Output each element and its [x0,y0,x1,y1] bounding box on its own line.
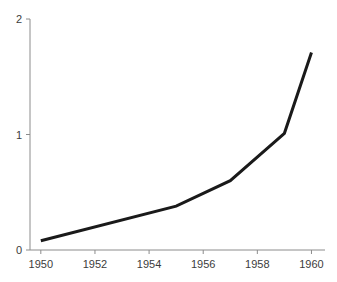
x-tick-label: 1956 [191,259,215,270]
y-tick-label: 1 [0,129,22,140]
x-tick-label: 1952 [83,259,107,270]
x-tick-label: 1958 [245,259,269,270]
x-tick-label: 1960 [299,259,323,270]
x-axis-ticks [41,250,312,254]
y-axis-ticks [26,19,30,250]
chart-figure: 012 195019521954195619581960 [0,0,337,282]
x-tick-label: 1954 [137,259,161,270]
y-tick-label: 2 [0,14,22,25]
line-chart-canvas [0,0,337,282]
x-tick-label: 1950 [29,259,53,270]
data-series-line [41,53,312,241]
y-tick-label: 0 [0,245,22,256]
